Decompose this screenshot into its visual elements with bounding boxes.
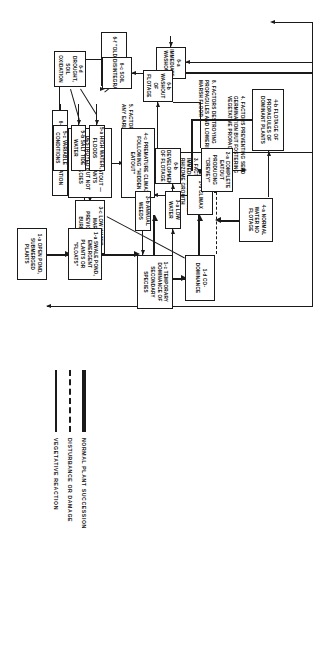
node-low-water[interactable]: 3-a LOW WATER	[165, 191, 181, 229]
node-temporary-dominance[interactable]: 1-c TEMPORARY DOMINANCE OF SECONDARY SPE…	[137, 255, 173, 309]
arrow-development-to-washout	[157, 102, 161, 107]
node-salt-tide-water-tag: 5-b	[80, 131, 85, 139]
node-premature-climax-label: PREMATURE CLIMAX FOLLOWING "HIDDEN EATOU…	[130, 136, 148, 193]
node-complete-eatout-main[interactable]: 2-a COMPLETE EATOUT PRODUCING "CREVEY"	[201, 148, 233, 192]
node-swale-pond-tag: 1-a	[93, 232, 98, 239]
node-development-flotage-tag: 6-b	[173, 162, 178, 170]
node-soil-disintegration-right[interactable]: 6-c SOIL DISINTEGRATION	[102, 57, 132, 89]
connector-development-to-washout	[157, 102, 158, 148]
connector-top-rail-left-drop	[273, 22, 313, 23]
node-high-water-floods-tag: 5-a	[99, 127, 104, 134]
node-drought-oxidation-tag: 6-d	[78, 65, 83, 73]
connector-codominance-to-complete-eatout	[216, 192, 217, 254]
node-swale-pond-label: SWALE POND, EMERGENT PLANTS OR "FLOATS"	[73, 240, 98, 276]
node-old-crevey-tag: 6-f	[112, 36, 117, 42]
node-premature-climax[interactable]: 4-c PREMATURE CLIMAX FOLLOWING "HIDDEN E…	[121, 128, 155, 198]
node-high-water-floods-label: HIGH WATER, FLOODS	[92, 136, 104, 169]
arrow-temporary-to-climax	[153, 215, 159, 221]
node-codominance-tag: 1-d	[202, 269, 207, 277]
node-variable-conditions-tag: 5-c	[62, 131, 67, 138]
node-high-water-floods[interactable]: 5-a HIGH WATER, FLOODS	[89, 125, 105, 171]
arrow-codominance-to-climax	[198, 215, 204, 221]
node-flotage-propagules-tag: 4-b	[273, 100, 278, 108]
diagram-page: 6-f "OLD CREVEY" 6-e SOIL DISINTEGRATION…	[0, 0, 333, 658]
connector-codominance-to-climax	[198, 215, 200, 255]
arrow-normal-water-down	[215, 217, 221, 223]
legend-item-1: DISTURBANCE OR DAMAGE	[67, 370, 73, 522]
connector-swale-to-temporary	[102, 254, 137, 256]
node-annual-weeds[interactable]: 3-b ANNUAL WEEDS	[135, 191, 151, 231]
node-normal-water-label: NORMAL WATER NO FLOTAGE	[248, 207, 266, 236]
node-drought-oxidation[interactable]: 6-d DROUGHT, SOIL OXIDATION	[54, 51, 86, 87]
node-soil-disintegration-right-tag: 6-c	[119, 63, 124, 70]
legend-key-vegetative-reaction	[55, 370, 56, 432]
node-washout-flotage-tag: 6-b	[166, 82, 171, 90]
node-open-pond-label: OPEN POND, SUBMERGED PLANTS	[24, 238, 42, 274]
arrow-codominance-to-lowwater	[172, 229, 176, 234]
node-salt-tide-water-label: SALT TIDE WATER	[74, 139, 86, 165]
connector-top-rail	[312, 22, 313, 306]
legend-item-0: NORMAL PLANT SUCCESSION	[81, 370, 87, 529]
connector-temporary-to-climax	[153, 215, 155, 257]
legend-item-2: VEGETATIVE REACTION	[53, 370, 59, 510]
node-immediate-washout-tag: 6-a	[176, 59, 181, 66]
connector-rail-right-drop	[47, 306, 313, 307]
node-normal-water[interactable]: 4-a NORMAL WATER NO FLOTAGE	[239, 198, 273, 242]
legend-key-disturbance	[69, 370, 71, 432]
node-codominance-label: CO-DOMINANCE	[195, 263, 207, 294]
node-salt-tide-water[interactable]: 5-b SALT TIDE WATER	[71, 125, 86, 171]
arrow-open-pond-top	[46, 304, 51, 308]
legend-label-disturbance: DISTURBANCE OR DAMAGE	[67, 438, 73, 522]
node-temporary-dominance-tag: 1-c	[163, 262, 168, 269]
node-complete-eatout-tag: 2-a	[225, 152, 230, 159]
legend: NORMAL PLANT SUCCESSION DISTURBANCE OR D…	[27, 370, 87, 570]
node-low-water-burned-tag: 3-c	[98, 207, 103, 214]
connector-normal-water-down	[219, 220, 239, 222]
node-complete-eatout-label: COMPLETE EATOUT PRODUCING "CREVEY"	[205, 155, 230, 188]
arrow-lowwater-to-development	[172, 184, 176, 189]
node-washout-flotage[interactable]: 6-b WASHOUT OF FLOTAGE	[143, 70, 173, 102]
node-drought-oxidation-label: DROUGHT, SOIL OXIDATION	[58, 55, 76, 82]
node-premature-climax-tag: 4-c	[143, 133, 148, 140]
node-codominance[interactable]: 1-d CO-DOMINANCE	[185, 255, 215, 301]
node-low-water-tag: 3-a	[175, 200, 180, 207]
node-open-pond-tag: 1-a	[37, 234, 42, 241]
connector-drought-diagonal-a	[80, 89, 97, 115]
arrow-top-rail-left	[270, 20, 275, 24]
node-flotage-propagules[interactable]: 4-b FLOTAGE OF PROPAGULES OF DOMINANT PL…	[252, 89, 284, 151]
node-climax-label: CLIMAX	[198, 190, 203, 209]
node-variable-conditions[interactable]: 5-c VARIABLE CONDITIONS	[53, 125, 68, 171]
diagram-canvas: 6-f "OLD CREVEY" 6-e SOIL DISINTEGRATION…	[0, 0, 333, 658]
legend-label-vegetative-reaction: VEGETATIVE REACTION	[53, 438, 59, 510]
node-normal-water-tag: 4-a	[261, 205, 266, 212]
node-open-pond[interactable]: 1-a OPEN POND, SUBMERGED PLANTS	[17, 228, 47, 280]
node-washout-flotage-label: WASHOUT OF FLOTAGE	[146, 73, 164, 98]
node-annual-weeds-label: ANNUAL WEEDS	[138, 202, 150, 226]
caption-factors-8: 8. FACTORS DESTROYING PROPAGULES AND LOW…	[196, 80, 216, 158]
node-development-flotage[interactable]: 6-b DEVELOPMENT OF FLOTAGE	[155, 148, 181, 184]
arrow-factors4-to-flotage	[268, 151, 272, 156]
node-temporary-dominance-label: TEMPORARY DOMINANCE OF SECONDARY SPECIES	[143, 263, 168, 303]
node-variable-conditions-label: VARIABLE CONDITIONS	[56, 132, 68, 165]
legend-label-normal-succession: NORMAL PLANT SUCCESSION	[81, 438, 87, 529]
node-development-flotage-label: DEVELOPMENT OF FLOTAGE	[160, 150, 172, 184]
node-swale-pond[interactable]: 1-a SWALE POND, EMERGENT PLANTS OR "FLOA…	[68, 228, 102, 280]
connector-factors4-to-flotage	[268, 151, 269, 197]
connector-rail-to-immediate-washout	[186, 62, 313, 63]
legend-key-normal-succession	[82, 370, 85, 432]
node-annual-weeds-tag: 3-b	[145, 196, 150, 204]
